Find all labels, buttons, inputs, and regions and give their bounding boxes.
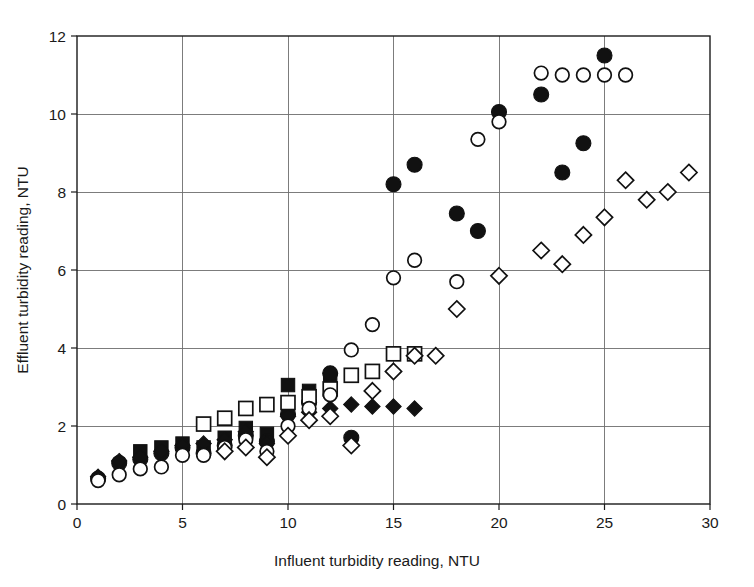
open-circle-marker [534,66,548,80]
open-circle-marker [345,343,359,357]
y-tick-labels: 024681012 [49,28,67,513]
open-diamond-marker [533,242,549,258]
open-square-marker [281,396,295,410]
x-tick-label: 5 [178,514,187,531]
open-diamond-marker [618,172,634,188]
filled-circle-marker [449,206,464,221]
filled-circle-marker [323,366,338,381]
open-circle-marker [176,448,190,462]
open-diamond-marker [639,192,655,208]
open-diamond-marker [449,301,465,317]
open-circle-marker [387,271,401,285]
x-tick-label: 20 [490,514,508,531]
open-square-marker [197,417,211,431]
filled-circle-marker [386,177,401,192]
series-open-circle [91,66,632,487]
y-tick-label: 2 [57,418,66,435]
open-square-marker [239,401,253,415]
open-diamond-marker [660,184,676,200]
open-circle-marker [619,68,633,82]
open-diamond-marker [575,227,591,243]
open-circle-marker [366,318,380,332]
open-circle-marker [408,253,422,267]
open-circle-marker [471,133,485,147]
open-diamond-marker [364,383,380,399]
filled-circle-marker [534,87,549,102]
filled-circle-marker [576,136,591,151]
x-tick-label: 25 [596,514,613,531]
open-square-marker [218,411,232,425]
open-circle-marker [197,448,211,462]
open-circle-marker [556,68,570,82]
open-square-marker [260,398,274,412]
x-tick-label: 30 [701,514,719,531]
chart-figure: 051015202530 024681012 Influent turbidit… [0,0,754,587]
filled-circle-marker [597,48,612,63]
open-circle-marker [492,115,506,129]
filled-circle-marker [407,157,422,172]
y-tick-label: 8 [57,184,66,201]
open-diamond-marker [428,348,444,364]
filled-diamond-marker [344,397,359,412]
filled-diamond-marker [407,401,422,416]
y-tick-label: 0 [57,496,66,513]
y-axis-title: Effluent turbidity reading, NTU [14,166,31,373]
open-circle-marker [155,460,169,474]
open-circle-marker [450,275,464,289]
open-circle-marker [323,388,337,402]
scatter-plot: 051015202530 024681012 Influent turbidit… [0,0,754,587]
open-diamond-marker [681,164,697,180]
grid-lines [77,36,710,504]
x-tick-label: 10 [279,514,297,531]
open-circle-marker [577,68,591,82]
y-tick-label: 12 [49,28,66,45]
x-tick-labels: 051015202530 [73,514,719,531]
filled-diamond-marker [386,399,401,414]
filled-square-marker [281,378,294,391]
open-circle-marker [112,468,126,482]
open-square-marker [344,368,358,382]
y-tick-label: 10 [49,106,67,123]
x-tick-label: 15 [385,514,402,531]
open-square-marker [365,364,379,378]
filled-circle-marker [470,224,485,239]
filled-diamond-marker [365,399,380,414]
open-circle-marker [91,474,105,488]
open-diamond-marker [385,363,401,379]
y-tick-label: 4 [57,340,66,357]
x-axis-title: Influent turbidity reading, NTU [274,552,480,569]
open-diamond-marker [596,209,612,225]
open-circle-marker [598,68,612,82]
open-square-marker [387,347,401,361]
filled-circle-marker [555,165,570,180]
y-tick-label: 6 [57,262,66,279]
x-tick-label: 0 [73,514,82,531]
open-circle-marker [134,462,148,476]
